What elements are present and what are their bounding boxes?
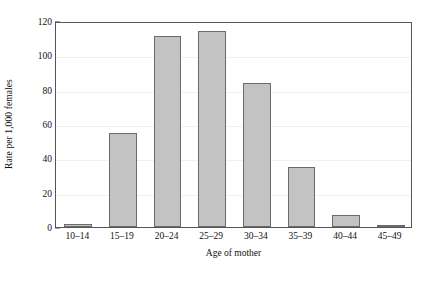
bar [288, 167, 316, 227]
bar [243, 83, 271, 227]
y-axis-tick-label: 60 [43, 120, 53, 130]
x-axis-tick-label: 10–14 [65, 231, 89, 241]
y-axis-tick-labels: 020406080100120 [22, 22, 52, 228]
x-axis-tick-label: 15–19 [110, 231, 134, 241]
y-axis-tick-label: 120 [38, 17, 52, 27]
x-axis-tick-labels: 10–1415–1920–2425–2930–3435–3940–4445–49 [55, 231, 412, 247]
x-axis-tick-label: 25–29 [199, 231, 223, 241]
bar-series [56, 23, 411, 227]
bar [154, 36, 182, 227]
y-axis-title: Rate per 1,000 females [0, 21, 18, 227]
bar-chart-figure: Rate per 1,000 females 020406080100120 1… [0, 0, 428, 283]
bar [198, 31, 226, 227]
x-axis-tick-label: 40–44 [333, 231, 357, 241]
plot-area [55, 22, 412, 228]
x-axis-title: Age of mother [55, 248, 412, 258]
bar [332, 215, 360, 227]
y-axis-tick-label: 20 [43, 189, 53, 199]
bar [109, 133, 137, 227]
y-axis-tick-label: 80 [43, 86, 53, 96]
bar [377, 225, 405, 227]
y-axis-tick-label: 0 [47, 223, 52, 233]
x-axis-tick-label: 30–34 [244, 231, 268, 241]
x-axis-tick-label: 20–24 [155, 231, 179, 241]
x-axis-tick-label: 45–49 [378, 231, 402, 241]
bar [64, 224, 92, 227]
y-axis-tick-label: 100 [38, 51, 52, 61]
y-axis-tick-label: 40 [43, 154, 53, 164]
x-axis-tick-label: 35–39 [289, 231, 313, 241]
